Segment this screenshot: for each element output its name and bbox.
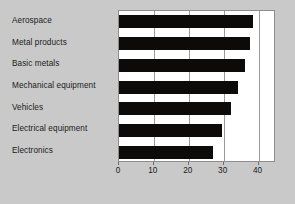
x-tick-label: 30 <box>210 166 236 175</box>
category-label: Aerospace <box>12 14 114 28</box>
bar <box>119 37 250 50</box>
bar <box>119 59 245 72</box>
chart-figure: AerospaceMetal productsBasic metalsMecha… <box>0 0 295 204</box>
category-label: Electrical equipment <box>12 122 114 136</box>
x-tick-mark <box>118 162 119 165</box>
x-axis: 010203040 <box>118 162 275 184</box>
category-axis-labels: AerospaceMetal productsBasic metalsMecha… <box>0 10 116 162</box>
category-label: Mechanical equipment <box>12 79 114 93</box>
bar <box>119 124 222 137</box>
bar <box>119 146 213 159</box>
x-tick-label: 20 <box>175 166 201 175</box>
category-label: Electronics <box>12 144 114 158</box>
x-tick-mark <box>258 162 259 165</box>
x-tick-mark <box>153 162 154 165</box>
x-tick-label: 40 <box>245 166 271 175</box>
x-tick-label: 0 <box>105 166 131 175</box>
bar <box>119 81 238 94</box>
plot-area <box>118 10 275 162</box>
category-label: Metal products <box>12 36 114 50</box>
category-label: Basic metals <box>12 57 114 71</box>
x-tick-label: 10 <box>140 166 166 175</box>
bar-series <box>119 11 274 161</box>
x-tick-mark <box>188 162 189 165</box>
bar <box>119 15 253 28</box>
category-label: Vehicles <box>12 101 114 115</box>
bar <box>119 102 231 115</box>
x-tick-mark <box>223 162 224 165</box>
